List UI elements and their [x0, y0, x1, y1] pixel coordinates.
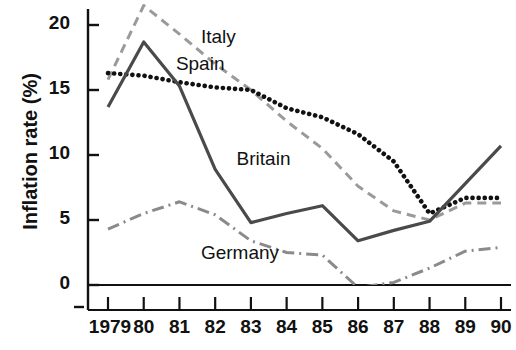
y-tick-label: 20 [0, 12, 70, 34]
x-tick-label: 89 [445, 316, 485, 338]
y-tick-label: 10 [0, 142, 70, 164]
x-tick-label: 80 [124, 316, 164, 338]
x-tick-label: 90 [481, 316, 516, 338]
x-tick-label: 81 [159, 316, 199, 338]
y-tick-label: 5 [0, 207, 70, 229]
series-label-britain: Britain [237, 148, 291, 170]
x-tick-label: 83 [231, 316, 271, 338]
x-tick-label: 88 [410, 316, 450, 338]
x-tick-label: 85 [302, 316, 342, 338]
series-label-italy: Italy [201, 26, 236, 48]
y-tick-label: 15 [0, 77, 70, 99]
y-tick-label: 0 [0, 272, 70, 294]
x-tick-label: 87 [374, 316, 414, 338]
series-line-britain [108, 42, 501, 241]
x-tick-label: 82 [195, 316, 235, 338]
series-label-germany: Germany [201, 242, 279, 264]
x-tick-label: 86 [338, 316, 378, 338]
x-tick-label: 84 [267, 316, 307, 338]
series-label-spain: Spain [176, 53, 225, 75]
series-line-spain [108, 73, 501, 213]
